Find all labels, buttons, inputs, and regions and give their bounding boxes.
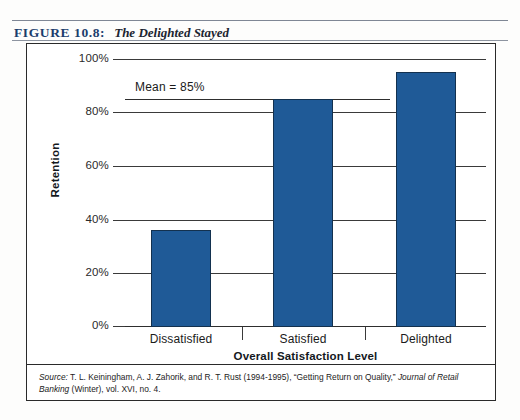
figure-title: The Delighted Stayed	[114, 25, 229, 40]
ytick-mark-100	[113, 59, 125, 60]
caption-top-rule	[12, 20, 508, 21]
ytick-mark-0	[113, 326, 125, 327]
ytick-label-0: 0%	[41, 319, 109, 331]
ytick-mark-80	[113, 112, 125, 113]
source-prefix: Source:	[39, 372, 68, 382]
source-note-box: Source: T. L. Keiningham, A. J. Zahorik,…	[26, 365, 496, 401]
ytick-label-100: 100%	[41, 52, 109, 64]
bar-delighted[interactable]	[396, 72, 456, 327]
gridline-100	[125, 59, 486, 60]
source-body-1: T. L. Keiningham, A. J. Zahorik, and R. …	[68, 372, 398, 382]
ytick-mark-20	[113, 273, 125, 274]
source-body-2: (Winter), vol. XVI, no. 4.	[69, 384, 160, 394]
bar-dissatisfied[interactable]	[151, 230, 211, 327]
caption-bottom-rule	[12, 40, 508, 41]
mean-annotation-label: Mean = 85%	[135, 80, 205, 94]
mean-reference-line	[125, 99, 390, 100]
plot-area: 100% 80% 60% 40% 20% 0% Retention Mean =…	[27, 44, 497, 366]
xtick-label-satisfied: Satisfied	[243, 332, 363, 346]
x-axis-title: Overall Satisfaction Level	[125, 350, 486, 362]
xtick-label-delighted: Delighted	[366, 332, 486, 346]
ytick-label-20: 20%	[41, 266, 109, 278]
figure-page: FIGURE 10.8:The Delighted Stayed 100% 80…	[0, 0, 520, 420]
source-note: Source: T. L. Keiningham, A. J. Zahorik,…	[39, 372, 483, 395]
chart-frame: 100% 80% 60% 40% 20% 0% Retention Mean =…	[26, 43, 496, 365]
y-axis-title: Retention	[49, 120, 61, 220]
figure-caption: FIGURE 10.8:The Delighted Stayed	[14, 23, 494, 40]
figure-number-label: FIGURE 10.8:	[14, 25, 105, 40]
ytick-mark-40	[113, 220, 125, 221]
ytick-mark-60	[113, 166, 125, 167]
bar-satisfied[interactable]	[273, 99, 333, 327]
ytick-label-80: 80%	[41, 105, 109, 117]
xtick-label-dissatisfied: Dissatisfied	[121, 332, 241, 346]
